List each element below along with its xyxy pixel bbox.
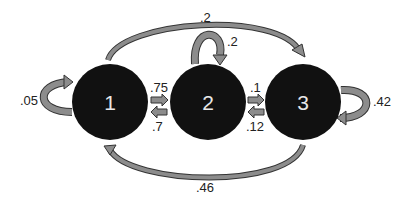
edge-label-1-2: .75 bbox=[150, 80, 168, 95]
self-loop-3 bbox=[337, 90, 366, 125]
edge-2-to-3 bbox=[248, 94, 264, 106]
edge-label-2-3: .1 bbox=[250, 80, 261, 95]
node-1: 1 bbox=[72, 64, 148, 140]
edge-label-1-1: .05 bbox=[20, 93, 38, 108]
edge-label-2-2: .2 bbox=[227, 34, 238, 49]
edge-label-2-1: .7 bbox=[152, 119, 163, 134]
markov-chain-diagram: .2 .46 .05 .2 .42 1 2 3 .7 bbox=[0, 0, 416, 211]
edge-3-to-1 bbox=[104, 145, 303, 178]
edge-3-to-2 bbox=[248, 106, 264, 118]
edge-1-to-3 bbox=[108, 25, 305, 60]
node-label-3: 3 bbox=[297, 91, 309, 114]
edge-label-3-1: .46 bbox=[196, 180, 214, 195]
node-2: 2 bbox=[170, 64, 246, 140]
edge-label-3-3: .42 bbox=[373, 94, 391, 109]
edge-2-to-1 bbox=[151, 106, 167, 118]
edge-label-3-2: .12 bbox=[246, 119, 264, 134]
edge-1-to-2 bbox=[151, 94, 168, 106]
node-label-2: 2 bbox=[202, 91, 214, 114]
node-3: 3 bbox=[265, 64, 341, 140]
edge-label-1-3: .2 bbox=[200, 10, 211, 25]
self-loop-1 bbox=[44, 75, 73, 112]
self-loop-2 bbox=[195, 35, 227, 65]
node-label-1: 1 bbox=[104, 91, 116, 114]
